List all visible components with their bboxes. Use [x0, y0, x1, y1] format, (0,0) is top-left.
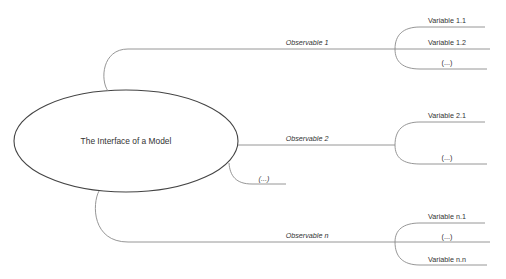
observable-more-label: (...)	[259, 174, 270, 183]
variable-2-more-label: (...)	[442, 153, 453, 162]
observable-more-branch: (...)	[229, 163, 286, 184]
variable-1-1-label: Variable 1.1	[428, 16, 466, 25]
variable-n-1-label: Variable n.1	[428, 212, 466, 221]
observable-1-connector	[104, 49, 395, 91]
observable-n-connector	[95, 191, 395, 242]
mind-map-diagram: The Interface of a Model Observable 1 Va…	[0, 0, 506, 279]
variable-1-2-label: Variable 1.2	[428, 38, 466, 47]
variable-n-n-label: Variable n.n	[428, 255, 466, 264]
variable-2-1-label: Variable 2.1	[428, 111, 466, 120]
observable-more-connector	[229, 163, 286, 184]
variable-1-more-label: (...)	[442, 58, 453, 67]
observable-1-branch: Observable 1 Variable 1.1 Variable 1.2 (…	[104, 16, 490, 91]
observable-n-branch: Observable n Variable n.1 (...) Variable…	[95, 191, 490, 265]
variable-n-1-connector	[395, 223, 485, 242]
variable-2-1-connector	[395, 122, 485, 145]
observable-n-label: Observable n	[286, 231, 329, 240]
observable-1-label: Observable 1	[286, 38, 329, 47]
variable-n-more-label: (...)	[442, 232, 453, 241]
root-node: The Interface of a Model	[14, 90, 238, 192]
root-label: The Interface of a Model	[81, 136, 172, 146]
observable-2-branch: Observable 2 Variable 2.1 (...)	[238, 111, 487, 164]
observable-2-label: Observable 2	[286, 134, 329, 143]
